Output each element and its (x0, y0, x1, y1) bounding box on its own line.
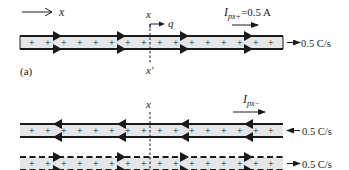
svg-text:Ipx−: Ipx− (242, 92, 260, 108)
band-b1-rate-label: 0.5 C/s (302, 126, 332, 137)
axis-label: x (58, 5, 65, 19)
svg-text:+: + (77, 158, 83, 169)
svg-text:+: + (77, 37, 83, 48)
svg-text:+: + (253, 158, 259, 169)
svg-text:+: + (61, 37, 67, 48)
svg-text:+: + (157, 158, 163, 169)
svg-text:+: + (268, 158, 274, 169)
panel-label-a: (a) (20, 65, 33, 78)
current-value: =0.5 A (241, 6, 271, 18)
charge-label: q (168, 17, 174, 29)
svg-text:+: + (109, 125, 115, 136)
x-axis-direction: x (22, 5, 65, 19)
svg-text:+: + (189, 125, 195, 136)
svg-text:+: + (93, 37, 99, 48)
cross-section-b: x (145, 98, 151, 110)
conductor-charge-flow-diagram: x + + + + + + + + + + + (0, 0, 349, 170)
svg-text:+: + (93, 158, 99, 169)
svg-text:+: + (221, 37, 227, 48)
band-b2: + + + + + + + + + + + + + + + + 0.5 C/s (20, 152, 332, 170)
svg-text:+: + (253, 125, 259, 136)
svg-text:+: + (189, 158, 195, 169)
svg-text:+: + (268, 37, 274, 48)
band-a-fill (20, 36, 283, 49)
svg-text:+: + (61, 158, 67, 169)
svg-text:+: + (189, 37, 195, 48)
section-label-bottom: x' (145, 64, 154, 76)
svg-text:+: + (157, 125, 163, 136)
svg-text:+: + (141, 125, 147, 136)
svg-text:+: + (125, 158, 131, 169)
svg-text:+: + (237, 37, 243, 48)
band-b2-rate-label: 0.5 C/s (302, 159, 332, 170)
current-plus-label: Ipx+=0.5 A (223, 5, 271, 25)
charge-flow-arrow-icon (159, 22, 165, 27)
svg-text:+: + (141, 37, 147, 48)
svg-text:+: + (45, 37, 51, 48)
svg-text:+: + (157, 37, 163, 48)
svg-text:+: + (173, 125, 179, 136)
svg-text:+: + (29, 37, 35, 48)
svg-text:+: + (237, 158, 243, 169)
svg-text:+: + (205, 37, 211, 48)
current-subscript: px+ (227, 12, 241, 21)
svg-text:Ipx+=0.5 A: Ipx+=0.5 A (223, 5, 271, 21)
band-b2-fill (20, 157, 283, 170)
svg-text:+: + (221, 158, 227, 169)
svg-text:+: + (93, 125, 99, 136)
section-label-lower: x (145, 98, 151, 110)
svg-text:+: + (29, 125, 35, 136)
svg-text:+: + (268, 125, 274, 136)
svg-text:+: + (141, 158, 147, 169)
svg-text:+: + (173, 158, 179, 169)
svg-text:+: + (61, 125, 67, 136)
svg-text:+: + (29, 158, 35, 169)
svg-text:+: + (221, 125, 227, 136)
svg-text:+: + (109, 158, 115, 169)
section-label-top: x (145, 8, 151, 20)
svg-text:+: + (205, 125, 211, 136)
svg-text:+: + (45, 158, 51, 169)
svg-text:+: + (205, 158, 211, 169)
current-minus-label: Ipx− (233, 92, 265, 112)
band-a-rate-label: 0.5 C/s (301, 38, 331, 49)
current-minus-subscript: px− (246, 99, 260, 108)
svg-text:+: + (125, 37, 131, 48)
svg-text:+: + (253, 37, 259, 48)
svg-text:+: + (45, 125, 51, 136)
svg-text:+: + (125, 125, 131, 136)
svg-text:+: + (77, 125, 83, 136)
svg-text:+: + (173, 37, 179, 48)
svg-text:+: + (109, 37, 115, 48)
band-b1: + + + + + + + + + + + + + + + + 0.5 C/s (20, 119, 332, 142)
band-a: + + + + + + + + + + + + + + + + 0.5 C/s (20, 31, 331, 54)
svg-text:+: + (237, 125, 243, 136)
